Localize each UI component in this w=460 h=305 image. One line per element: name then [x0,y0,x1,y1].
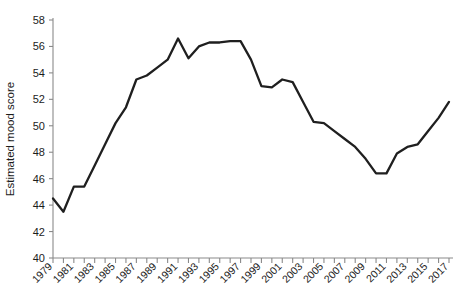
x-tick-label-group: 2001 [259,260,284,285]
x-tick-label: 1991 [154,260,179,285]
x-tick-label-group: 1993 [175,260,200,285]
y-tick-label: 52 [33,93,45,105]
mood-score-line-chart: 4042444648505254565819791981198319851987… [0,0,460,305]
x-tick-label: 2005 [300,260,325,285]
x-tick-label: 2013 [384,260,409,285]
x-tick-label: 1999 [238,260,263,285]
series-line-estimated-mood-score [53,39,449,212]
x-tick-label-group: 2011 [363,260,388,285]
x-tick-label: 2017 [425,260,450,285]
y-tick-label: 54 [33,67,45,79]
x-tick-label: 1985 [92,260,117,285]
x-tick-label: 2001 [259,260,284,285]
x-tick-label: 1993 [175,260,200,285]
x-tick-label-group: 2013 [384,260,409,285]
x-tick-label-group: 1989 [134,260,159,285]
x-tick-label-group: 1995 [196,260,221,285]
x-tick-label-group: 1999 [238,260,263,285]
x-tick-label: 2009 [342,260,367,285]
x-tick-label-group: 1983 [71,260,96,285]
y-tick-label: 44 [33,199,45,211]
x-tick-label: 1995 [196,260,221,285]
x-tick-label: 2007 [321,260,346,285]
x-tick-label: 1989 [134,260,159,285]
y-tick-label: 58 [33,14,45,26]
x-tick-label-group: 1987 [113,260,138,285]
y-tick-label: 48 [33,146,45,158]
x-tick-label: 1981 [50,260,75,285]
x-tick-label-group: 2009 [342,260,367,285]
x-tick-label-group: 1991 [154,260,179,285]
x-tick-label-group: 2017 [425,260,450,285]
x-tick-label: 1983 [71,260,96,285]
chart-canvas: 4042444648505254565819791981198319851987… [0,0,460,305]
y-tick-label: 56 [33,40,45,52]
y-tick-label: 42 [33,226,45,238]
x-tick-label-group: 2015 [405,260,430,285]
y-tick-label: 46 [33,173,45,185]
x-tick-label: 2011 [363,260,388,285]
x-tick-label: 1987 [113,260,138,285]
x-tick-label-group: 2007 [321,260,346,285]
x-tick-label-group: 1985 [92,260,117,285]
y-axis-title: Estimated mood score [4,82,16,196]
x-tick-label-group: 1981 [50,260,75,285]
x-tick-label: 1997 [217,260,242,285]
x-tick-label: 2015 [405,260,430,285]
x-tick-label-group: 2005 [300,260,325,285]
y-tick-label: 50 [33,120,45,132]
x-tick-label: 2003 [280,260,305,285]
x-tick-label-group: 1997 [217,260,242,285]
y-axis-title-group: Estimated mood score [4,82,16,196]
x-tick-label-group: 2003 [280,260,305,285]
